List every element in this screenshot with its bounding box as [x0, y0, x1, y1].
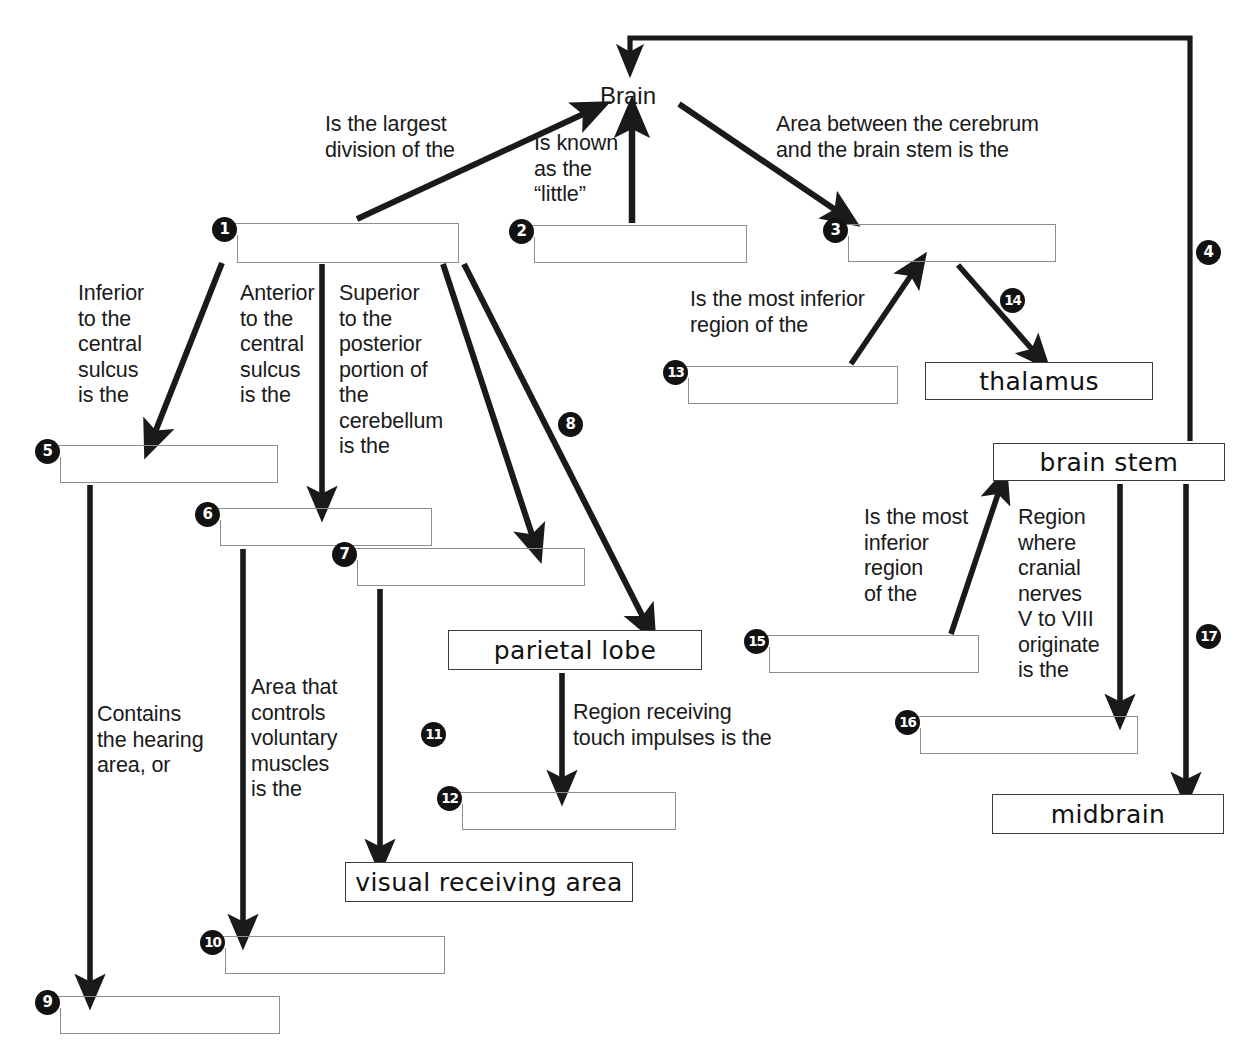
blank-6-edge-left	[220, 520, 221, 546]
badge-edge-17: 17	[1196, 624, 1221, 649]
blank-answer-9[interactable]	[48, 996, 280, 1034]
badge-6: 6	[195, 502, 220, 527]
prompt-inferior-to-central-sulcus: Inferior to the central sulcus is the	[78, 281, 193, 409]
blank-2-edge-left	[534, 237, 535, 263]
blank-15-edge-right	[978, 635, 979, 673]
badge-9: 9	[35, 990, 60, 1015]
blank-5-edge-left	[60, 457, 61, 483]
blank-1-edge-right	[458, 223, 459, 263]
blank-13-answer	[692, 366, 894, 404]
badge-edge-4: 4	[1196, 240, 1221, 265]
prompt-superior-to-posterior-cerebellum: Superior to the posterior portion of the…	[339, 281, 469, 460]
badge-edge-11: 11	[421, 722, 446, 747]
blank-answer-3[interactable]	[836, 224, 1056, 262]
blank-answer-13[interactable]	[676, 366, 898, 404]
prompt-most-inferior-region-lower: Is the most inferior region of the	[864, 505, 984, 607]
blank-9-edge-left	[60, 1008, 61, 1034]
blank-7-edge-left	[357, 560, 358, 586]
blank-1-answer	[241, 223, 455, 263]
blank-answer-15[interactable]	[757, 635, 979, 673]
blank-answer-6[interactable]	[208, 508, 432, 546]
blank-5-answer	[64, 445, 274, 483]
badge-1: 1	[212, 217, 237, 242]
blank-13-edge-right	[897, 366, 898, 404]
blank-answer-7[interactable]	[345, 548, 585, 586]
connector-3-to-thalamus	[958, 265, 1038, 356]
blank-10-answer	[229, 936, 441, 974]
prompt-anterior-to-central-sulcus: Anterior to the central sulcus is the	[240, 281, 355, 409]
badge-2: 2	[509, 219, 534, 244]
badge-7: 7	[332, 542, 357, 567]
blank-12-edge-right	[675, 792, 676, 830]
badge-12: 12	[437, 786, 462, 811]
prompt-most-inferior-region-upper: Is the most inferior region of the	[690, 287, 955, 338]
badge-edge-14: 14	[1000, 288, 1025, 313]
blank-7-answer	[361, 548, 581, 586]
badge-edge-8: 8	[558, 412, 583, 437]
badge-3: 3	[823, 218, 848, 243]
blank-1-edge-left	[237, 235, 238, 263]
node-brain: Brain	[600, 82, 656, 110]
blank-answer-2[interactable]	[522, 225, 747, 263]
prompt-between-cerebrum-and-brain-stem: Area between the cerebrum and the brain …	[776, 112, 1121, 163]
prompt-largest-division: Is the largest division of the	[325, 112, 560, 163]
blank-12-edge-left	[462, 804, 463, 830]
blank-5-edge-right	[277, 445, 278, 483]
badge-5: 5	[35, 439, 60, 464]
badge-15: 15	[744, 629, 769, 654]
blank-answer-5[interactable]	[48, 445, 278, 483]
blank-3-edge-right	[1055, 224, 1056, 262]
diagram-canvas: Brain Is the largest division of the Is …	[0, 0, 1259, 1048]
node-parietal-lobe: parietal lobe	[448, 630, 702, 670]
blank-16-edge-right	[1137, 716, 1138, 754]
blank-9-edge-right	[279, 996, 280, 1034]
prompt-region-receiving-touch-impulses: Region receiving touch impulses is the	[573, 700, 828, 751]
blank-13-edge-left	[688, 378, 689, 404]
blank-15-answer	[773, 635, 975, 673]
badge-16: 16	[895, 710, 920, 735]
node-midbrain: midbrain	[992, 794, 1224, 834]
blank-6-edge-right	[431, 508, 432, 546]
blank-7-edge-right	[584, 548, 585, 586]
blank-9-answer	[64, 996, 276, 1034]
badge-13: 13	[663, 360, 688, 385]
blank-answer-1[interactable]	[225, 223, 459, 263]
blank-6-answer	[224, 508, 428, 546]
blank-15-edge-left	[769, 647, 770, 673]
blank-answer-12[interactable]	[450, 792, 676, 830]
badge-10: 10	[200, 930, 225, 955]
blank-16-edge-left	[920, 728, 921, 754]
blank-3-edge-left	[848, 236, 849, 262]
blank-3-answer	[852, 224, 1052, 262]
blank-2-edge-right	[746, 225, 747, 263]
blank-12-answer	[466, 792, 672, 830]
blank-10-edge-left	[225, 948, 226, 974]
blank-answer-10[interactable]	[213, 936, 445, 974]
prompt-controls-voluntary-muscles: Area that controls voluntary muscles is …	[251, 675, 376, 803]
prompt-known-as-little: Is known as the “little”	[534, 131, 654, 208]
blank-answer-16[interactable]	[908, 716, 1138, 754]
prompt-cranial-nerves-origin: Region where cranial nerves V to VIII or…	[1018, 505, 1143, 684]
node-visual-receiving-area: visual receiving area	[345, 862, 633, 902]
prompt-contains-hearing-area: Contains the hearing area, or	[97, 702, 232, 779]
node-thalamus: thalamus	[925, 362, 1153, 400]
node-brain-stem: brain stem	[993, 443, 1225, 481]
blank-16-answer	[924, 716, 1134, 754]
blank-10-edge-right	[444, 936, 445, 974]
blank-2-answer	[538, 225, 743, 263]
